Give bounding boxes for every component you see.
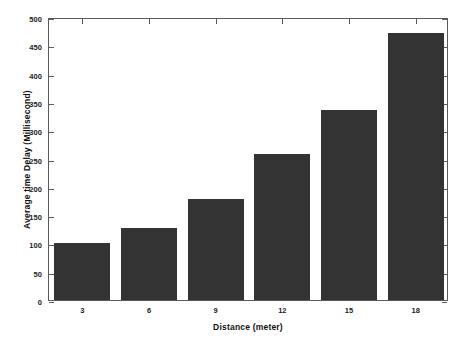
y-axis-tick xyxy=(49,302,54,303)
bar xyxy=(54,243,110,300)
bar xyxy=(321,110,377,300)
y-axis-tick-label: 0 xyxy=(38,298,42,307)
x-axis-tick-label: 15 xyxy=(345,306,353,315)
bar xyxy=(188,199,244,300)
x-axis-tick-label: 9 xyxy=(214,306,218,315)
bar xyxy=(254,154,310,300)
bar xyxy=(388,33,444,300)
x-axis-tick-label: 18 xyxy=(411,306,419,315)
y-axis-title: Average time Delay (Millisecond) xyxy=(22,18,38,301)
y-axis-tick-right xyxy=(442,302,447,303)
x-axis-tick-label: 12 xyxy=(278,306,286,315)
x-axis-title: Distance (meter) xyxy=(48,322,448,332)
chart-figure: 050100150200250300350400450500 369121518… xyxy=(0,0,467,344)
bar xyxy=(121,228,177,300)
bar-series xyxy=(49,19,447,300)
plot-area: 050100150200250300350400450500 369121518 xyxy=(48,18,448,301)
x-axis-tick-label: 3 xyxy=(80,306,84,315)
x-axis-tick-label: 6 xyxy=(147,306,151,315)
